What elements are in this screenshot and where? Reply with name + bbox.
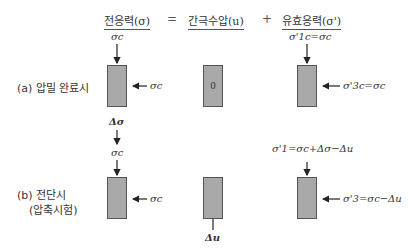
- header-equals: =: [167, 12, 177, 26]
- row-a-total-side-label: σc: [150, 80, 162, 91]
- soil-element-pore-b: [203, 177, 223, 219]
- row-a-label: (a) 압밀 완료시: [17, 79, 89, 95]
- row-b-effective-top-label: σ'1=σc+Δσ−Δu: [272, 143, 353, 154]
- row-a-total-top-label: σc: [111, 31, 123, 42]
- row-b-sublabel: (압축시험): [29, 201, 78, 217]
- soil-element-effective-b: [297, 177, 317, 219]
- row-b-total-side-label: σc: [150, 193, 162, 204]
- row-a-effective-side-label: σ'3c=σc: [343, 80, 385, 91]
- header-plus: +: [262, 12, 272, 26]
- sigma-c-label: σc: [111, 147, 123, 158]
- soil-element-effective-a: [297, 65, 317, 107]
- pore-pressure-zero: 0: [204, 81, 222, 91]
- soil-element-total-a: [107, 65, 127, 107]
- header-pore-pressure: 간극수압(u): [188, 12, 244, 30]
- delta-u-label: Δu: [205, 232, 220, 243]
- row-a-effective-top-label: σ'1c=σc: [289, 31, 331, 42]
- row-b-label: (b) 전단시: [17, 186, 66, 202]
- header-total-stress: 전응력(σ): [104, 12, 150, 30]
- row-b-effective-side-label: σ'3=σc−Δu: [343, 193, 402, 204]
- header-effective-stress: 유효응력(σ'): [282, 12, 341, 30]
- soil-element-pore-a: 0: [203, 65, 223, 107]
- soil-element-total-b: [107, 177, 127, 219]
- delta-sigma-label: Δσ: [109, 116, 124, 127]
